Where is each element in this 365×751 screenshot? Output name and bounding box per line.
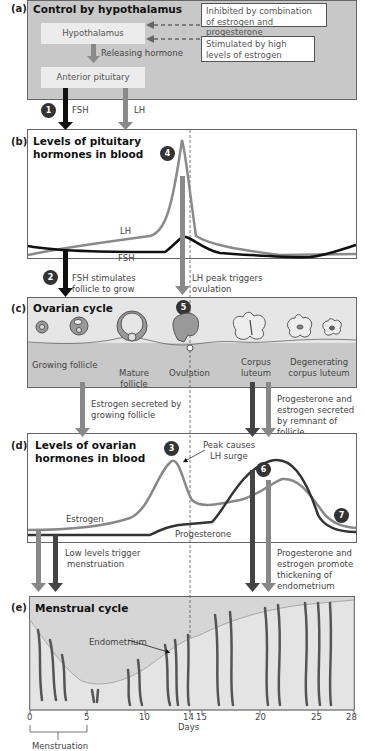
estrogen-curve	[28, 461, 356, 530]
diagram-graphics	[0, 0, 365, 751]
lh-peak-arrow	[175, 176, 190, 295]
fsh-arrow	[58, 88, 73, 130]
estrogen-secreted-arrow	[75, 382, 90, 437]
progesterone-curve	[28, 460, 356, 535]
corpus-luteum-arrows	[245, 382, 276, 437]
low-levels-arrows	[31, 530, 63, 592]
thickening-arrows	[245, 470, 276, 592]
days-axis	[30, 710, 354, 715]
menstruation-bracket	[30, 725, 87, 740]
releasing-hormone-arrow	[87, 44, 100, 63]
feedback-arrows	[146, 21, 200, 43]
follicle-icons	[36, 311, 341, 351]
ovary-surface-line	[28, 337, 356, 345]
lh-curve	[28, 140, 356, 255]
peak-arrow-line	[185, 450, 205, 461]
endometrium-pointer	[128, 640, 168, 652]
fsh-stimulates-arrow	[58, 250, 73, 297]
lh-arrow	[118, 88, 133, 130]
